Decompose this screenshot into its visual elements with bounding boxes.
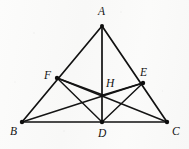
point-label-e: E	[140, 67, 147, 79]
point-label-f: F	[44, 70, 51, 82]
geometry-figure-canvas: A B C D E F H	[0, 0, 189, 149]
vertex-dot-b	[20, 120, 24, 124]
point-label-b: B	[10, 126, 17, 138]
point-label-c: C	[172, 126, 180, 138]
point-label-a: A	[98, 6, 105, 18]
segment-ac	[102, 26, 167, 122]
vertex-dot-c	[165, 120, 169, 124]
point-label-d: D	[98, 128, 106, 140]
point-label-h: H	[106, 78, 114, 90]
vertex-dot-e	[141, 81, 145, 85]
segment-ab	[22, 26, 102, 122]
vertex-dot-f	[55, 76, 59, 80]
segment-fh	[57, 78, 103, 95]
segment-fd	[57, 78, 102, 122]
geometry-diagram-svg	[0, 0, 189, 149]
vertex-dot-d	[100, 120, 104, 124]
vertex-dot-a	[100, 24, 104, 28]
